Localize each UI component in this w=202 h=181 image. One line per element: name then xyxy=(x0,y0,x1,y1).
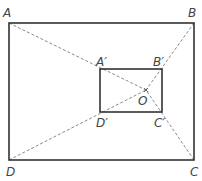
label-A-prime: A′ xyxy=(95,55,107,69)
label-D-prime: D′ xyxy=(96,116,108,130)
ray-D-O xyxy=(9,90,146,160)
label-C: C xyxy=(190,165,199,179)
label-B: B xyxy=(188,6,196,20)
dashed-rays xyxy=(9,23,194,160)
label-D: D xyxy=(6,165,15,179)
label-A: A xyxy=(2,6,11,20)
inner-rectangle-A'B'C'D' xyxy=(100,69,162,112)
outer-rectangle-ABCD xyxy=(9,23,194,160)
ray-A-O xyxy=(9,23,146,90)
homothety-diagram: A B C D A′ B′ C′ D′ O xyxy=(0,0,202,181)
center-cross-icon xyxy=(144,88,148,92)
label-O: O xyxy=(138,94,147,108)
label-B-prime: B′ xyxy=(153,55,164,69)
label-C-prime: C′ xyxy=(154,116,165,130)
